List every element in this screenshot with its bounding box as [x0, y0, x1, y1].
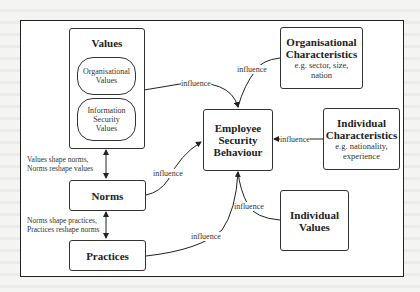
- practices-title: Practices: [86, 250, 129, 262]
- individual-values-box: Individual Values: [280, 190, 349, 251]
- org-char-sub2: nation: [311, 70, 332, 80]
- norms-box: Norms: [69, 180, 146, 211]
- norms-practices-note-line1: Norms shape practices,: [27, 216, 99, 225]
- esb-line3: Behaviour: [214, 146, 263, 158]
- employee-security-behaviour-box: Employee Security Behaviour: [203, 109, 273, 171]
- label-ind-char-influence: influence: [280, 135, 310, 144]
- ind-char-line1: Individual: [337, 117, 386, 129]
- ind-char-line2: Characteristics: [326, 129, 397, 141]
- label-ind-values-influence: influence: [234, 202, 264, 211]
- organisational-characteristics-box: Organisational Characteristics e.g. sect…: [280, 27, 363, 89]
- org-char-line1: Organisational: [286, 36, 356, 48]
- esb-line2: Security: [218, 134, 257, 146]
- isv-line2: Security: [93, 115, 120, 124]
- ind-char-sub1: e.g. nationality,: [335, 141, 387, 151]
- organisational-values-pill: Organisational Values: [77, 57, 136, 95]
- isv-line1: Information: [87, 106, 125, 115]
- isv-line3: Values: [96, 124, 117, 133]
- individual-characteristics-box: Individual Characteristics e.g. national…: [323, 108, 400, 170]
- org-values-line1: Organisational: [83, 67, 130, 76]
- label-org-influence: influence: [237, 65, 267, 74]
- norms-practices-note: Norms shape practices, Practices reshape…: [27, 216, 99, 234]
- values-norms-note: Values shape norms, Norms reshape values: [27, 155, 93, 173]
- values-norms-note-line2: Norms reshape values: [27, 164, 93, 173]
- org-values-line2: Values: [96, 76, 117, 85]
- org-char-line2: Characteristics: [286, 48, 357, 60]
- label-norms-influence: influence: [153, 169, 183, 178]
- label-values-influence: influence: [181, 79, 211, 88]
- org-char-sub1: e.g. sector, size,: [295, 60, 349, 70]
- esb-line1: Employee: [215, 122, 261, 134]
- norms-practices-note-line2: Practices reshape norms: [27, 225, 99, 234]
- information-security-values-pill: Information Security Values: [77, 98, 136, 141]
- ind-values-line2: Values: [299, 221, 330, 233]
- practices-box: Practices: [69, 240, 146, 271]
- norms-title: Norms: [92, 190, 124, 202]
- ind-values-line1: Individual: [290, 209, 339, 221]
- values-title: Values: [92, 37, 123, 49]
- label-practices-influence: influence: [191, 232, 221, 241]
- values-norms-note-line1: Values shape norms,: [27, 155, 93, 164]
- ind-char-sub2: experience: [343, 151, 380, 161]
